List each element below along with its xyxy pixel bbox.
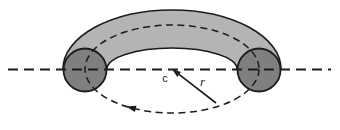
direction-arrowhead: [126, 106, 137, 112]
radius-arrow: [172, 69, 216, 103]
torus-diagram: c r: [0, 0, 340, 130]
radius-arrow-line: [179, 74, 216, 103]
radius-label: r: [200, 74, 206, 89]
center-label: c: [162, 72, 168, 84]
torus-diagram-canvas: c r: [0, 0, 340, 130]
